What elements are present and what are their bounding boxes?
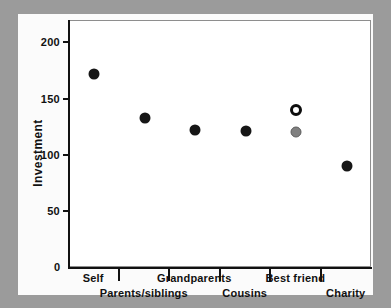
x-tick-label: Best friend bbox=[265, 272, 325, 284]
y-axis-line bbox=[68, 20, 70, 268]
plot-area bbox=[69, 21, 370, 266]
data-point bbox=[190, 124, 201, 135]
x-tick-label: Charity bbox=[326, 287, 365, 299]
y-tick-label: 150 bbox=[41, 93, 60, 105]
data-point bbox=[139, 112, 150, 123]
data-point bbox=[341, 160, 352, 171]
x-axis-labels: SelfParents/siblingsGrandparentsCousinsB… bbox=[68, 269, 371, 308]
plot-frame bbox=[68, 20, 371, 267]
x-tick-label: Cousins bbox=[222, 287, 267, 299]
data-point bbox=[240, 126, 251, 137]
x-tick-label: Grandparents bbox=[157, 272, 232, 284]
data-point bbox=[291, 127, 302, 138]
y-axis-title: Investment bbox=[31, 119, 45, 186]
y-axis-tick bbox=[63, 98, 68, 100]
y-tick-label: 50 bbox=[47, 205, 60, 217]
y-axis-tick bbox=[63, 210, 68, 212]
y-axis-tick bbox=[63, 41, 68, 43]
y-tick-label: 200 bbox=[41, 36, 60, 48]
x-axis-tick bbox=[118, 269, 120, 281]
y-axis-tick bbox=[63, 154, 68, 156]
data-point bbox=[290, 104, 302, 116]
data-point bbox=[89, 68, 100, 79]
x-tick-label: Self bbox=[83, 272, 104, 284]
chart-figure: 50100150200 Investment 0 SelfParents/sib… bbox=[18, 14, 373, 295]
y-tick-label-zero: 0 bbox=[54, 261, 60, 273]
x-tick-label: Parents/siblings bbox=[100, 287, 188, 299]
